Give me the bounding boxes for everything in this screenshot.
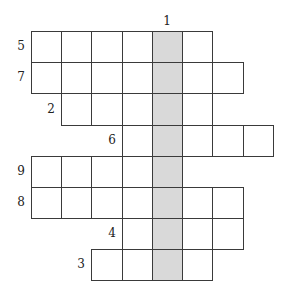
clue-number-9-across: 9 — [9, 165, 25, 177]
clue-number-1-down: 1 — [152, 15, 182, 27]
grid-cell[interactable] — [31, 62, 62, 94]
grid-cell[interactable] — [152, 187, 183, 219]
grid-cell[interactable] — [122, 125, 153, 157]
grid-cell[interactable] — [122, 187, 153, 219]
grid-cell[interactable] — [61, 156, 92, 188]
grid-cell[interactable] — [212, 187, 244, 219]
grid-cell[interactable] — [91, 187, 123, 219]
grid-cell[interactable] — [31, 31, 62, 63]
crossword-grid: 1 57269843 — [0, 0, 289, 299]
grid-cell[interactable] — [152, 93, 183, 126]
grid-cell[interactable] — [212, 125, 244, 157]
grid-cell[interactable] — [152, 249, 183, 281]
grid-cell[interactable] — [122, 93, 153, 126]
grid-cell[interactable] — [61, 187, 92, 219]
grid-cell[interactable] — [212, 218, 244, 250]
grid-cell[interactable] — [91, 93, 123, 126]
grid-cell[interactable] — [61, 62, 92, 94]
grid-cell[interactable] — [152, 156, 183, 188]
grid-cell[interactable] — [182, 249, 213, 281]
grid-cell[interactable] — [91, 249, 123, 281]
grid-cell[interactable] — [152, 31, 183, 63]
grid-cell[interactable] — [182, 125, 213, 157]
grid-cell[interactable] — [243, 125, 274, 157]
grid-cell[interactable] — [182, 187, 213, 219]
grid-cell[interactable] — [122, 218, 153, 250]
grid-cell[interactable] — [152, 125, 183, 157]
grid-cell[interactable] — [182, 218, 213, 250]
clue-number-5-across: 5 — [9, 40, 25, 52]
clue-number-7-across: 7 — [9, 71, 25, 83]
clue-number-2-across: 2 — [39, 103, 55, 115]
grid-cell[interactable] — [182, 31, 213, 63]
clue-number-3-across: 3 — [69, 258, 85, 270]
grid-cell[interactable] — [91, 31, 123, 63]
grid-cell[interactable] — [152, 62, 183, 94]
grid-cell[interactable] — [182, 62, 213, 94]
clue-number-4-across: 4 — [100, 227, 116, 239]
grid-cell[interactable] — [122, 249, 153, 281]
clue-number-8-across: 8 — [9, 196, 25, 208]
grid-cell[interactable] — [182, 93, 213, 126]
grid-cell[interactable] — [122, 156, 153, 188]
grid-cell[interactable] — [212, 62, 244, 94]
clue-number-6-across: 6 — [100, 134, 116, 146]
grid-cell[interactable] — [91, 156, 123, 188]
grid-cell[interactable] — [61, 31, 92, 63]
grid-cell[interactable] — [31, 156, 62, 188]
grid-cell[interactable] — [91, 62, 123, 94]
grid-cell[interactable] — [122, 62, 153, 94]
grid-cell[interactable] — [31, 187, 62, 219]
grid-cell[interactable] — [122, 31, 153, 63]
grid-cell[interactable] — [152, 218, 183, 250]
grid-cell[interactable] — [61, 93, 92, 126]
